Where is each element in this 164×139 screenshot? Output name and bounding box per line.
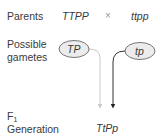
gamete1-label: TP [67, 43, 80, 55]
f1-label-line2: Generation [7, 123, 59, 135]
gamete2-to-offspring-line [113, 51, 125, 106]
gamete2-label: tp [135, 45, 144, 57]
offspring-genotype: TtPp [96, 122, 118, 134]
gamete1-to-offspring-line [89, 49, 100, 106]
f1-label-sub: 1 [13, 116, 17, 123]
gamete-diagram [0, 0, 164, 139]
